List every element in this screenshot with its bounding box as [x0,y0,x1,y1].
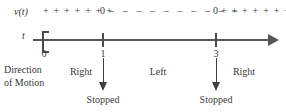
sign-zero-at-t3: 0 [213,5,219,16]
direction-of-motion-line-2: of Motion [4,76,66,89]
arrow-head [212,82,220,91]
stopped-arrow-at-t3-icon [211,58,222,91]
axis-tick-1 [102,33,104,47]
direction-of-motion-line-1: Direction [4,63,66,76]
axis-arrow-icon [268,34,279,46]
arrow-head [99,82,107,91]
stopped-label-at-t3: Stopped [186,94,246,105]
direction-of-motion-label: Direction of Motion [4,63,66,89]
axis-tick-3 [215,33,217,47]
sign-plus-right: + + + + + + + [221,5,286,16]
interval-direction-right-first: Right [63,66,99,77]
velocity-sign-chart-figure: v(t) + + + + + + + 0 – – – – – – – – – –… [0,0,286,112]
interval-direction-left: Left [140,66,176,77]
interval-direction-right-second: Right [226,66,262,77]
time-axis-label: t [22,30,25,41]
arrow-stem [103,58,104,84]
sign-row: + + + + + + + 0 – – – – – – – – – – 0 + … [43,5,278,19]
velocity-function-label: v(t) [14,6,28,17]
stopped-label-at-t1: Stopped [73,94,133,105]
axis-line [33,39,271,41]
stopped-arrow-at-t1-icon [98,58,109,91]
axis-tick-label-0: 0 [37,48,51,59]
sign-zero-at-t1: 0 [100,5,106,16]
arrow-stem [216,58,217,84]
